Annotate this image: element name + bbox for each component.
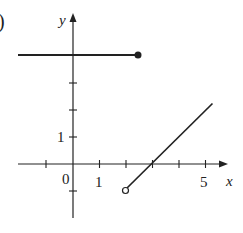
piece-diagonal-segment xyxy=(123,104,213,194)
open-endpoint-circle xyxy=(123,188,129,194)
y-axis: y 1 xyxy=(57,12,77,218)
origin-label: 0 xyxy=(62,171,70,187)
piecewise-graph: ) x 0 1 5 y 1 xyxy=(0,0,243,233)
x-tick-label-5: 5 xyxy=(200,174,208,190)
y-axis-label: y xyxy=(57,12,66,28)
x-axis-label: x xyxy=(225,173,233,189)
x-axis: x 0 1 5 xyxy=(18,160,233,190)
x-tick-label-1: 1 xyxy=(95,174,103,190)
y-tick-label-1: 1 xyxy=(57,129,65,145)
y-axis-arrow-icon xyxy=(70,13,77,22)
closed-endpoint-dot xyxy=(135,52,142,59)
piece-horizontal-segment xyxy=(18,52,142,59)
x-axis-arrow-icon xyxy=(219,161,228,168)
panel-label: ) xyxy=(0,10,5,33)
